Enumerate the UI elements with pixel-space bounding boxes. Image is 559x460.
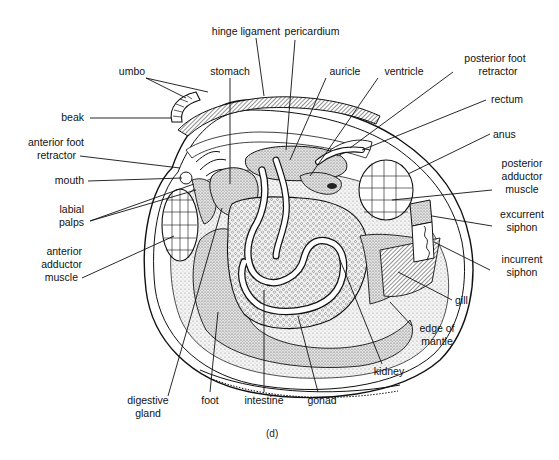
label-labial-palps-1: labial	[30, 203, 84, 216]
label-posterior-adductor-3: muscle	[490, 183, 554, 196]
label-incurrent-siphon-1: incurrent	[490, 253, 554, 266]
label-digestive-gland-2: gland	[118, 407, 178, 420]
label-beak: beak	[30, 111, 84, 124]
label-anterior-adductor-2: adductor	[20, 258, 82, 271]
label-intestine: intestine	[236, 394, 292, 407]
label-auricle: auricle	[320, 65, 370, 78]
label-kidney: kidney	[364, 365, 414, 378]
label-mouth: mouth	[30, 174, 84, 187]
label-anterior-adductor-1: anterior	[20, 245, 82, 258]
label-excurrent-siphon-2: siphon	[490, 221, 554, 234]
label-anterior-adductor-3: muscle	[20, 271, 78, 284]
excurrent-siphon	[410, 200, 432, 226]
label-edge-of-mantle-1: edge of	[410, 322, 464, 335]
figure-caption: (d)	[266, 428, 278, 439]
label-labial-palps-2: palps	[30, 216, 84, 229]
label-posterior-foot-retractor-1: posterior foot	[440, 52, 550, 65]
label-rectum: rectum	[491, 93, 523, 106]
label-gonad: gonad	[300, 394, 344, 407]
label-gill: gill	[455, 294, 468, 307]
label-ventricle: ventricle	[374, 65, 434, 78]
label-anus: anus	[493, 128, 516, 141]
label-digestive-gland-1: digestive	[118, 394, 178, 407]
label-stomach: stomach	[200, 65, 260, 78]
label-pericardium: pericardium	[272, 25, 352, 38]
label-umbo: umbo	[112, 65, 152, 78]
label-anterior-foot-retractor-1: anterior foot	[0, 136, 84, 149]
label-incurrent-siphon-2: siphon	[490, 266, 554, 279]
label-foot: foot	[195, 394, 225, 407]
label-anterior-foot-retractor-2: retractor	[0, 149, 76, 162]
label-posterior-adductor-1: posterior	[490, 157, 554, 170]
label-posterior-adductor-2: adductor	[490, 170, 554, 183]
incurrent-siphon	[412, 222, 434, 262]
label-excurrent-siphon-1: excurrent	[490, 208, 554, 221]
label-posterior-foot-retractor-2: retractor	[448, 65, 548, 78]
posterior-adductor-muscle	[359, 160, 413, 220]
label-edge-of-mantle-2: mantle	[410, 335, 464, 348]
